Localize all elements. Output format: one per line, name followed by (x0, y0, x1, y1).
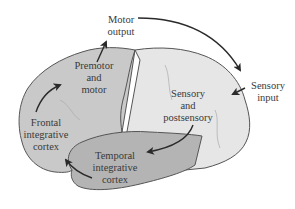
label-line: and (150, 100, 226, 112)
label-line: integrative (80, 162, 150, 174)
label-line: Sensory (150, 88, 226, 100)
label-line: cortex (14, 141, 78, 153)
label-line: Sensory (244, 80, 292, 92)
label-sensory-postsensory: Sensory and postsensory (150, 88, 226, 124)
label-line: output (96, 26, 146, 38)
label-line: Premotor (64, 60, 124, 72)
label-line: Frontal (14, 117, 78, 129)
label-line: input (244, 92, 292, 104)
label-sensory-input: Sensory input (244, 80, 292, 104)
label-premotor-motor: Premotor and motor (64, 60, 124, 96)
label-line: integrative (14, 129, 78, 141)
label-line: Temporal (80, 150, 150, 162)
label-line: motor (64, 84, 124, 96)
label-frontal-integrative-cortex: Frontal integrative cortex (14, 117, 78, 153)
label-motor-output: Motor output (96, 14, 146, 38)
label-temporal-integrative-cortex: Temporal integrative cortex (80, 150, 150, 186)
label-line: Motor (96, 14, 146, 26)
label-line: cortex (80, 174, 150, 186)
label-line: postsensory (150, 112, 226, 124)
label-line: and (64, 72, 124, 84)
